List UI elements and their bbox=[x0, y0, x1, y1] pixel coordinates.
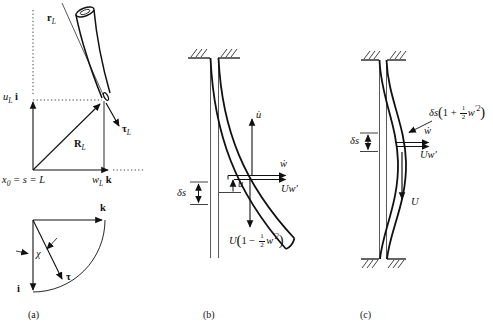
label-u-dot: u̇ bbox=[256, 110, 261, 121]
label-Uw-prime-b: Uw′ bbox=[281, 184, 298, 195]
label-u-displacement: u bbox=[238, 179, 243, 190]
label-r-L-vector: rL bbox=[47, 13, 56, 24]
label-Uw-prime-c: Uw′ bbox=[420, 150, 437, 161]
label-delta-s-b: δs bbox=[177, 188, 186, 199]
panel-a-rod bbox=[62, 3, 110, 101]
beam-kinematics-figure: rL uL i τL RL x0 = s = L wL k k i τ χ (a… bbox=[0, 0, 493, 335]
panel-a-angle-diagram bbox=[16, 220, 105, 292]
label-axial-velocity-formula-b: U(1 − 12w′2) bbox=[229, 233, 284, 250]
caption-c: (c) bbox=[360, 310, 371, 320]
label-stretched-element-formula-c: δs(1 + 12w′2) bbox=[429, 105, 485, 122]
label-delta-s-c: δs bbox=[350, 136, 359, 147]
label-tau-L-vector: τL bbox=[122, 124, 131, 135]
caption-b: (b) bbox=[203, 310, 215, 320]
label-k-unit-vector: k bbox=[100, 203, 106, 214]
label-U-velocity: U bbox=[411, 197, 419, 208]
diagram-line-art bbox=[0, 0, 493, 335]
label-chi-angle: χ bbox=[36, 249, 41, 260]
label-tau-unit-vector: τ bbox=[66, 272, 71, 283]
panel-c-supports bbox=[361, 51, 406, 268]
panel-b-support bbox=[188, 49, 240, 58]
label-x0-equals-s-equals-L: x0 = s = L bbox=[2, 175, 45, 186]
label-w-dot-c: ẇ bbox=[424, 126, 431, 137]
label-R-L-vector: RL bbox=[74, 139, 86, 150]
label-wL-k-axis: wL k bbox=[92, 175, 112, 186]
panel-a-axes bbox=[33, 10, 144, 170]
label-w-dot-b: ẇ bbox=[280, 159, 287, 170]
label-i-unit-vector: i bbox=[17, 284, 20, 295]
label-uL-i-axis: uL i bbox=[3, 92, 18, 103]
caption-a: (a) bbox=[28, 310, 39, 320]
